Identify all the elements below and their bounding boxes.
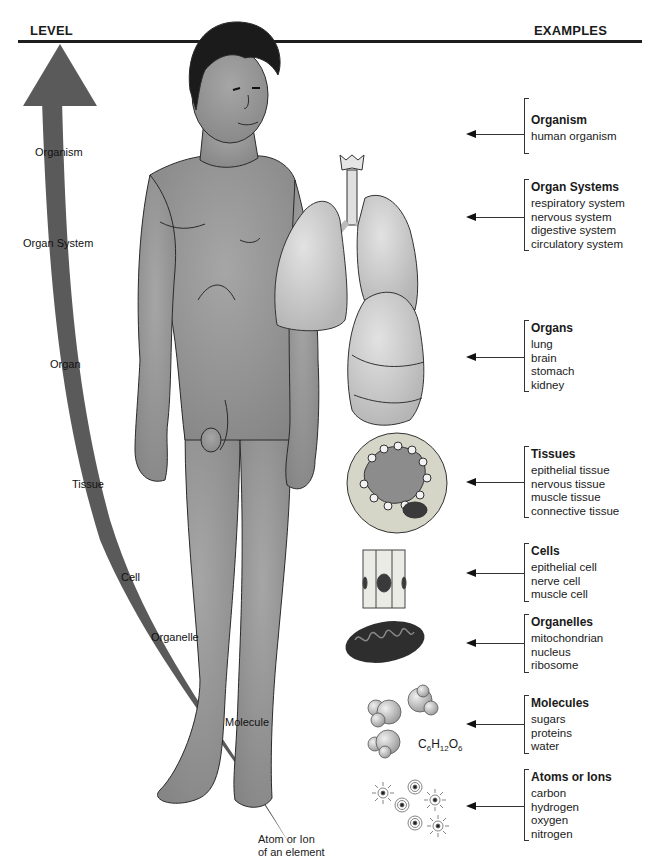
example-group-organs: Organs lung brain stomach kidney (524, 320, 574, 392)
example-group-atoms: Atoms or Ions carbon hydrogen oxygen nit… (524, 769, 612, 841)
example-group-organism: Organism human organism (524, 98, 617, 154)
example-group-molecules: Molecules sugars proteins water (524, 695, 589, 754)
mitochondrion-icon (342, 615, 428, 668)
level-label-cell: Cell (121, 571, 140, 583)
example-group-cells: Cells epithelial cell nerve cell muscle … (524, 543, 597, 602)
example-item: proteins (531, 727, 589, 741)
arrowhead-icon (466, 353, 476, 361)
example-item: lung (531, 338, 574, 352)
example-item: oxygen (531, 814, 612, 828)
pointer-arrow-cells (475, 573, 524, 574)
example-item: mitochondrian (531, 632, 603, 646)
example-title: Molecules (531, 695, 589, 712)
example-group-tissues: Tissues epithelial tissue nervous tissue… (524, 446, 619, 518)
example-title: Tissues (531, 446, 619, 463)
glucose-formula: C6H12O6 (418, 737, 463, 753)
arrowhead-icon (466, 802, 476, 810)
example-item: hydrogen (531, 801, 612, 815)
example-item: respiratory system (531, 197, 625, 211)
example-item: stomach (531, 365, 574, 379)
arrowhead-icon (466, 569, 476, 577)
example-item: muscle tissue (531, 491, 619, 505)
example-item: brain (531, 352, 574, 366)
level-label-organelle: Organelle (151, 631, 199, 643)
example-title: Organelles (531, 614, 603, 631)
level-label-organism: Organism (35, 146, 83, 158)
level-label-organ: Organ (50, 358, 81, 370)
pointer-arrow-organ-systems (475, 217, 524, 218)
epithelial-cell-icon (363, 550, 406, 608)
example-item: muscle cell (531, 588, 597, 602)
atom-icon (372, 780, 449, 837)
example-title: Organism (531, 112, 617, 129)
example-item: ribosome (531, 659, 603, 673)
level-label-molecule: Molecule (225, 716, 269, 728)
example-item: circulatory system (531, 238, 625, 252)
pointer-arrow-atoms (475, 806, 524, 807)
arrowhead-icon (466, 639, 476, 647)
tissue-cross-section-icon (347, 433, 447, 533)
arrowhead-icon (466, 213, 476, 221)
pointer-arrow-molecules (475, 724, 524, 725)
pointer-arrow-organs (475, 357, 524, 358)
human-figure-icon (135, 22, 319, 807)
arrowhead-icon (466, 130, 476, 138)
example-item: digestive system (531, 224, 625, 238)
level-label-atom: Atom or Ion of an element (258, 833, 325, 859)
pointer-arrow-organelles (475, 643, 524, 644)
example-item: nerve cell (531, 575, 597, 589)
example-item: nervous tissue (531, 478, 619, 492)
level-label-tissue: Tissue (72, 478, 104, 490)
example-title: Organ Systems (531, 179, 625, 196)
pointer-arrow-organism (475, 134, 524, 135)
example-item: sugars (531, 713, 589, 727)
level-label-atom-line2: of an element (258, 846, 325, 859)
example-item: human organism (531, 130, 617, 144)
example-title: Atoms or Ions (531, 769, 612, 786)
example-title: Organs (531, 320, 574, 337)
lung-icon (348, 292, 424, 425)
example-group-organelles: Organelles mitochondrian nucleus ribosom… (524, 614, 603, 673)
pointer-arrow-tissues (475, 482, 524, 483)
example-item: epithelial tissue (531, 464, 619, 478)
example-item: kidney (531, 379, 574, 393)
arrowhead-icon (466, 478, 476, 486)
example-item: carbon (531, 787, 612, 801)
example-item: epithelial cell (531, 561, 597, 575)
example-item: nitrogen (531, 828, 612, 842)
level-label-organ-system: Organ System (23, 237, 93, 249)
example-item: connective tissue (531, 505, 619, 519)
example-item: nervous system (531, 211, 625, 225)
example-group-organ-systems: Organ Systems respiratory system nervous… (524, 179, 625, 251)
level-label-atom-line1: Atom or Ion (258, 833, 325, 846)
example-item: water (531, 740, 589, 754)
example-title: Cells (531, 543, 597, 560)
arrowhead-icon (466, 720, 476, 728)
example-item: nucleus (531, 646, 603, 660)
